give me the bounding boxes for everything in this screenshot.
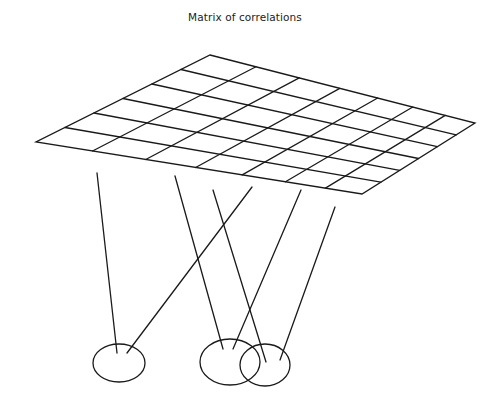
connector-line xyxy=(175,176,223,349)
connector-line xyxy=(97,173,117,353)
cluster-ellipse xyxy=(240,344,290,386)
connector-line xyxy=(280,207,335,360)
grid-col-line xyxy=(285,107,412,182)
connector-line xyxy=(233,190,301,349)
cluster-ellipse xyxy=(200,339,260,385)
grid-outline xyxy=(36,55,475,194)
connector-lines xyxy=(97,173,335,362)
grid-col-line xyxy=(242,98,377,175)
correlation-matrix-grid xyxy=(36,55,475,194)
grid-row-line xyxy=(152,84,437,147)
connector-line xyxy=(213,190,266,362)
connector-line xyxy=(127,187,252,353)
cluster-ellipse xyxy=(93,344,145,382)
grid-row-line xyxy=(123,99,419,159)
correlation-diagram xyxy=(0,0,490,408)
grid-row-line xyxy=(181,70,456,135)
